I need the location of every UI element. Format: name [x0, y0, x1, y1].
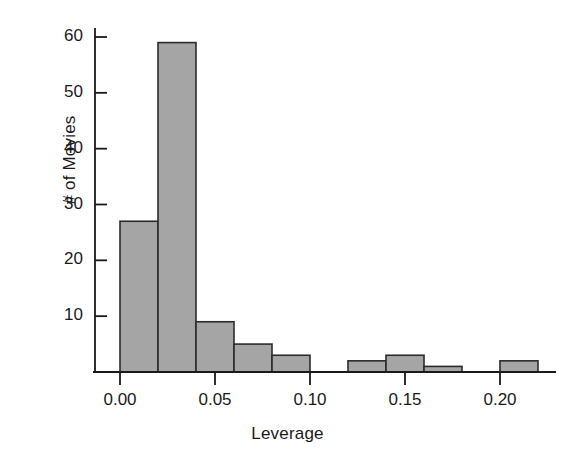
histogram-bar [196, 322, 234, 372]
histogram-bar [158, 43, 196, 372]
x-axis-tick-label: 0.10 [275, 390, 345, 410]
x-axis-tick-label: 0.15 [370, 390, 440, 410]
histogram-bar [348, 361, 386, 372]
histogram-bar [500, 361, 538, 372]
y-axis-tick-label: 10 [37, 305, 83, 325]
x-axis-label: Leverage [0, 424, 575, 444]
x-axis-tick-label: 0.00 [85, 390, 155, 410]
x-axis-ticks [120, 372, 500, 385]
x-axis-tick-label: 0.20 [465, 390, 535, 410]
y-axis-tick-label: 20 [37, 249, 83, 269]
x-axis-tick-label: 0.05 [180, 390, 250, 410]
histogram-figure: # of Movies Leverage 1020304050600.000.0… [0, 0, 575, 465]
y-axis-tick-label: 40 [37, 138, 83, 158]
histogram-bars [120, 43, 538, 372]
histogram-bar [386, 355, 424, 372]
y-axis-tick-label: 50 [37, 82, 83, 102]
histogram-bar [272, 355, 310, 372]
y-axis-tick-label: 30 [37, 194, 83, 214]
histogram-bar [234, 344, 272, 372]
y-axis-ticks [95, 37, 107, 316]
histogram-bar [120, 221, 158, 372]
y-axis-tick-label: 60 [37, 26, 83, 46]
